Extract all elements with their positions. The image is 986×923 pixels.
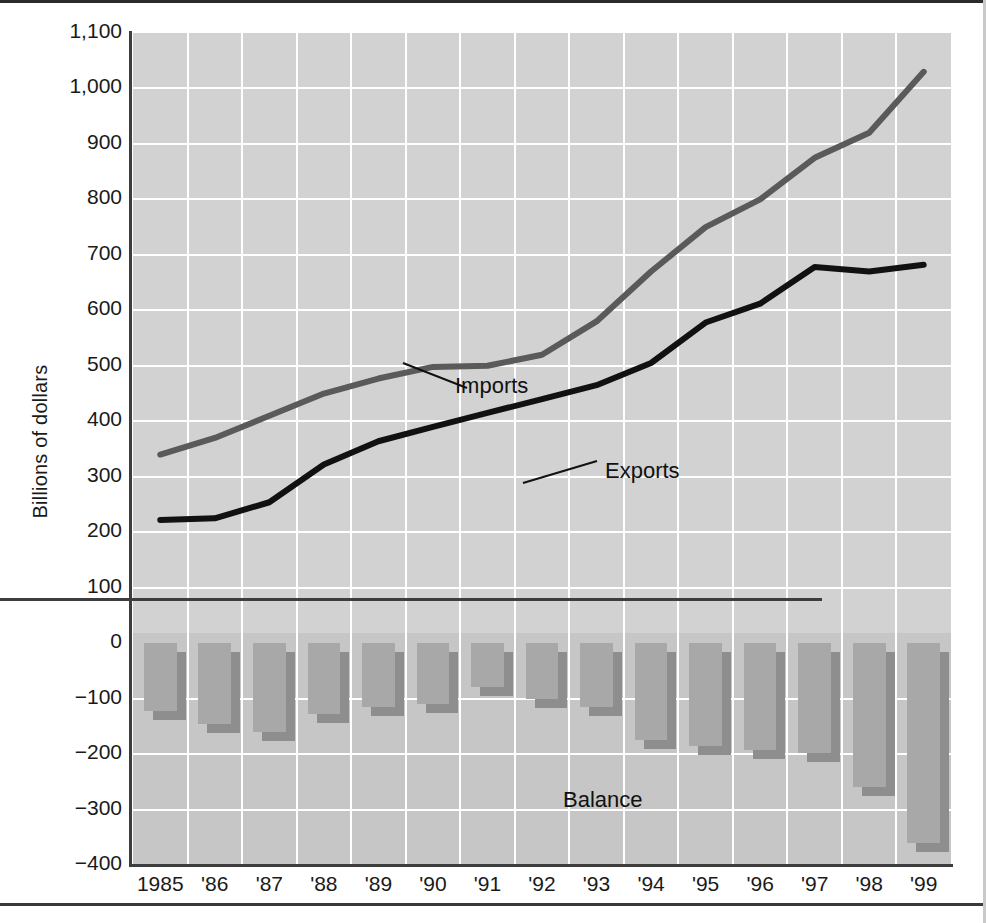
x-tick-label: '90 <box>406 872 461 896</box>
x-tick-label: '98 <box>842 872 897 896</box>
y-tick-label: 100 <box>12 574 122 598</box>
x-tick-label: '87 <box>242 872 297 896</box>
zero-axis-line <box>0 598 822 601</box>
x-tick-label: '97 <box>787 872 842 896</box>
y-axis-tick-labels: 1,1001,0009008007006005004003002001000−1… <box>10 0 122 923</box>
x-tick-label: '94 <box>624 872 679 896</box>
y-tick-label: 600 <box>12 296 122 320</box>
frame-top-border <box>0 0 986 3</box>
x-tick-label: '91 <box>460 872 515 896</box>
plot-area: Imports Exports Balance <box>133 33 951 865</box>
y-tick-label: 300 <box>12 463 122 487</box>
y-tick-label: 400 <box>12 407 122 431</box>
x-tick-label: '96 <box>733 872 788 896</box>
x-axis-line <box>129 864 953 867</box>
y-tick-label: −200 <box>12 740 122 764</box>
x-axis-tick-labels: 1985'86'87'88'89'90'91'92'93'94'95'96'97… <box>133 872 951 906</box>
y-tick-label: 500 <box>12 352 122 376</box>
y-tick-label: 200 <box>12 518 122 542</box>
y-tick-label: 0 <box>12 629 122 653</box>
x-tick-label: '88 <box>297 872 352 896</box>
y-tick-label: 900 <box>12 130 122 154</box>
y-tick-label: 800 <box>12 185 122 209</box>
x-tick-label: '86 <box>188 872 243 896</box>
trade-balance-chart: Billions of dollars 1,1001,0009008007006… <box>0 0 986 923</box>
leader-lines-group <box>133 33 951 865</box>
x-tick-label: 1985 <box>133 872 188 896</box>
x-tick-label: '99 <box>896 872 951 896</box>
y-tick-label: 700 <box>12 241 122 265</box>
x-tick-label: '95 <box>678 872 733 896</box>
x-tick-label: '92 <box>515 872 570 896</box>
x-tick-label: '93 <box>569 872 624 896</box>
y-tick-label: −100 <box>12 685 122 709</box>
y-tick-label: 1,100 <box>12 19 122 43</box>
x-tick-label: '89 <box>351 872 406 896</box>
exports-leader-line <box>523 461 597 483</box>
imports-leader-line <box>403 363 467 388</box>
y-tick-label: 1,000 <box>12 74 122 98</box>
y-tick-label: −300 <box>12 796 122 820</box>
y-axis-line <box>129 31 132 867</box>
y-tick-label: −400 <box>12 851 122 875</box>
